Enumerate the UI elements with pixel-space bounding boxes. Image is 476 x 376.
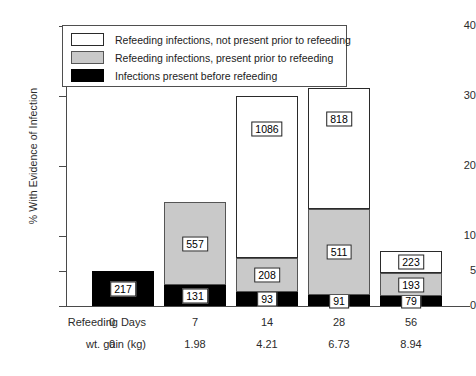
bar-segment-white-3[interactable]: 818 xyxy=(308,88,370,209)
x-axis-row1-value-1: 7 xyxy=(164,316,226,328)
bar-segment-white-2[interactable]: 1086 xyxy=(236,96,298,258)
legend-label-gray: Refeeding infections, present prior to r… xyxy=(115,52,333,64)
x-axis-row1-value-3: 28 xyxy=(308,316,370,328)
x-axis-row2-value-4: 8.94 xyxy=(380,338,442,350)
bar-segment-black-3[interactable]: 91 xyxy=(308,295,370,306)
x-axis-row2-value-0: 0 xyxy=(81,338,143,350)
y-tick-0 xyxy=(59,306,67,307)
x-axis-row1-value-0: 0 xyxy=(81,316,143,328)
x-axis-row-refeeding-days: Refeeding Days 0 7 14 28 56 xyxy=(0,316,476,332)
bar-group-3[interactable]: 91 511 818 xyxy=(308,88,370,306)
bar-value-label-gray-1: 557 xyxy=(182,236,208,251)
x-axis-row2-value-2: 4.21 xyxy=(236,338,298,350)
bar-value-label-black-2: 93 xyxy=(257,292,277,307)
legend-item-white[interactable]: Refeeding infections, not present prior … xyxy=(71,31,346,48)
legend-label-white: Refeeding infections, not present prior … xyxy=(115,34,351,46)
bar-value-label-gray-2: 208 xyxy=(254,268,280,283)
legend-swatch-white-icon xyxy=(71,33,104,46)
bar-segment-gray-1[interactable]: 557 xyxy=(164,202,226,285)
bar-value-label-gray-4: 193 xyxy=(398,277,424,292)
legend-item-gray[interactable]: Refeeding infections, present prior to r… xyxy=(71,49,346,66)
bar-group-1[interactable]: 131 557 xyxy=(164,202,226,306)
x-axis-row2-value-3: 6.73 xyxy=(308,338,370,350)
bar-value-label-gray-3: 511 xyxy=(327,245,352,260)
legend-item-black[interactable]: Infections present before refeeding xyxy=(71,67,346,84)
bar-segment-gray-4[interactable]: 193 xyxy=(380,273,442,296)
x-axis-row1-value-2: 14 xyxy=(236,316,298,328)
bar-value-label-white-3: 818 xyxy=(326,112,352,127)
legend-swatch-gray-icon xyxy=(71,51,104,64)
bar-value-label-white-2: 1086 xyxy=(251,122,282,137)
x-axis-row2-value-1: 1.98 xyxy=(164,338,226,350)
legend: Refeeding infections, not present prior … xyxy=(62,25,347,87)
legend-swatch-black-icon xyxy=(71,69,104,82)
x-axis-row1-value-4: 56 xyxy=(380,316,442,328)
bar-value-label-black-3: 91 xyxy=(329,293,349,308)
bar-value-label-black-0: 217 xyxy=(110,281,136,296)
x-axis-row-wt-gain: wt. gain (kg) 0 1.98 4.21 6.73 8.94 xyxy=(0,338,476,354)
bar-value-label-black-1: 131 xyxy=(182,288,208,303)
bar-segment-black-4[interactable]: 79 xyxy=(380,296,442,306)
bar-value-label-white-4: 223 xyxy=(398,255,424,270)
bar-segment-gray-2[interactable]: 208 xyxy=(236,258,298,292)
bar-group-2[interactable]: 93 208 1086 xyxy=(236,96,298,306)
bar-segment-black-2[interactable]: 93 xyxy=(236,292,298,306)
bar-segment-black-1[interactable]: 131 xyxy=(164,285,226,306)
bar-segment-gray-3[interactable]: 511 xyxy=(308,209,370,295)
bar-group-4[interactable]: 79 193 223 xyxy=(380,251,442,306)
chart-container: % With Evidence of Infection 40 30 20 10… xyxy=(0,0,476,376)
y-axis-title: % With Evidence of Infection xyxy=(27,61,39,251)
bar-segment-black-0[interactable]: 217 xyxy=(92,271,154,306)
bar-group-0[interactable]: 217 xyxy=(92,271,154,306)
legend-label-black: Infections present before refeeding xyxy=(115,70,277,82)
bar-segment-white-4[interactable]: 223 xyxy=(380,251,442,273)
